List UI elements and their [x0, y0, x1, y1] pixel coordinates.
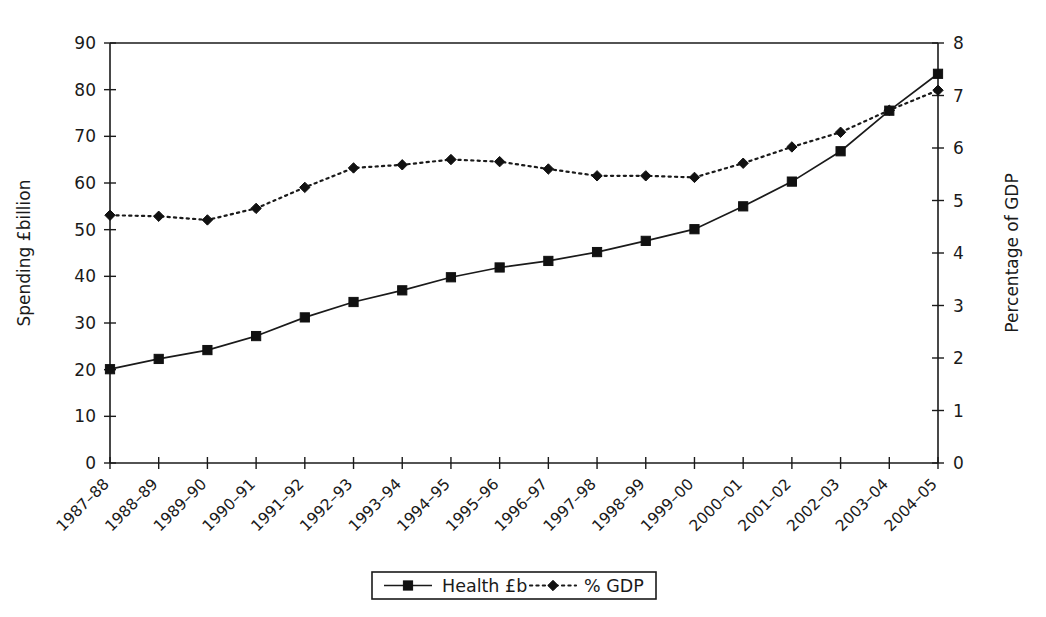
y-axis-right-tick-label: 3 — [953, 296, 964, 316]
data-point-marker-diamond — [202, 215, 212, 225]
legend-label-gdp: % GDP — [584, 576, 644, 596]
data-point-marker-square — [105, 365, 114, 374]
y-axis-left-tick-label: 0 — [85, 453, 96, 473]
data-point-marker-diamond — [251, 203, 261, 213]
y-axis-left-tick-label: 20 — [74, 360, 96, 380]
y-axis-right-tick-label: 0 — [953, 453, 964, 473]
data-point-marker-square — [836, 147, 845, 156]
data-point-marker-square — [690, 225, 699, 234]
y-axis-left-tick-label: 40 — [74, 266, 96, 286]
series-line-gdp — [110, 90, 938, 220]
y-axis-right-tick-label: 5 — [953, 191, 964, 211]
line-chart-canvas: 01020304050607080900123456781987–881988–… — [0, 0, 1046, 617]
data-point-marker-diamond — [154, 211, 164, 221]
y-axis-left-title: Spending £billion — [14, 180, 34, 327]
y-axis-right-tick-label: 7 — [953, 86, 964, 106]
data-point-marker-diamond — [641, 171, 651, 181]
data-point-marker-square — [787, 177, 796, 186]
data-point-marker-square — [739, 202, 748, 211]
y-axis-left-tick-label: 30 — [74, 313, 96, 333]
legend-label-health: Health £b — [442, 576, 527, 596]
y-axis-right-tick-label: 8 — [953, 33, 964, 53]
data-point-marker-diamond — [592, 171, 602, 181]
data-point-marker-diamond — [933, 85, 943, 95]
y-axis-right-tick-label: 2 — [953, 348, 964, 368]
data-point-marker-square — [300, 313, 309, 322]
data-point-marker-diamond — [397, 160, 407, 170]
data-point-marker-square — [252, 331, 261, 340]
legend-marker-square-health — [403, 581, 412, 590]
y-axis-right-tick-label: 6 — [953, 138, 964, 158]
y-axis-right-tick-label: 1 — [953, 401, 964, 421]
data-point-marker-square — [544, 256, 553, 265]
data-point-marker-square — [495, 263, 504, 272]
y-axis-right-title: Percentage of GDP — [1002, 173, 1022, 332]
data-point-marker-square — [446, 273, 455, 282]
y-axis-left-tick-label: 10 — [74, 406, 96, 426]
data-point-marker-square — [641, 236, 650, 245]
data-point-marker-diamond — [738, 158, 748, 168]
data-point-marker-square — [203, 345, 212, 354]
x-axis-tick-label: 2004–05 — [881, 475, 941, 535]
chart-figure: 01020304050607080900123456781987–881988–… — [0, 0, 1046, 617]
data-point-marker-square — [349, 297, 358, 306]
data-point-marker-diamond — [446, 154, 456, 164]
series-line-health-b — [110, 74, 938, 369]
data-point-marker-diamond — [300, 182, 310, 192]
data-point-marker-diamond — [835, 127, 845, 137]
data-point-marker-diamond — [787, 142, 797, 152]
data-point-marker-diamond — [348, 163, 358, 173]
y-axis-left-tick-label: 50 — [74, 220, 96, 240]
y-axis-left-tick-label: 60 — [74, 173, 96, 193]
data-point-marker-diamond — [543, 164, 553, 174]
data-point-marker-square — [933, 69, 942, 78]
data-point-marker-diamond — [689, 172, 699, 182]
data-point-marker-square — [154, 354, 163, 363]
data-point-marker-square — [592, 247, 601, 256]
data-point-marker-diamond — [105, 210, 115, 220]
y-axis-left-tick-label: 70 — [74, 126, 96, 146]
y-axis-right-tick-label: 4 — [953, 243, 964, 263]
data-point-marker-square — [398, 286, 407, 295]
y-axis-left-tick-label: 80 — [74, 80, 96, 100]
y-axis-left-tick-label: 90 — [74, 33, 96, 53]
data-point-marker-diamond — [494, 156, 504, 166]
